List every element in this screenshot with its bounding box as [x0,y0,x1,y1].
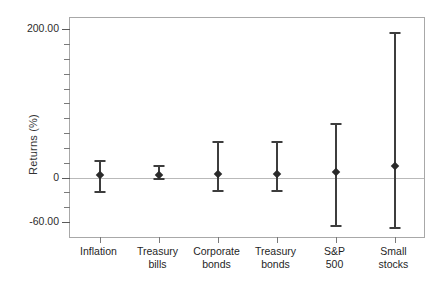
y-axis-major-tick [62,178,70,179]
y-axis-major-tick [62,222,70,223]
x-axis-tick [336,237,337,243]
error-bar-line [394,33,396,228]
x-axis-category-label: Inflation [80,245,117,258]
x-axis-category-label: Corporate bonds [193,245,240,270]
x-axis-category-label: Treasury bills [137,245,178,270]
error-bar [70,18,424,237]
error-bar-cap-lower [389,227,400,229]
error-bar-chart: Returns (%) 200.000-60.00InflationTreasu… [0,0,441,289]
x-axis-category-label: Small stocks [379,245,409,270]
y-axis-tick-label: -60.00 [29,215,59,227]
x-axis-category-label: S&P 500 [324,245,345,270]
x-axis-category-label: Treasury bonds [255,245,296,270]
x-axis-tick [395,237,396,243]
plot-inner [70,18,424,237]
data-point-marker [390,162,398,170]
x-axis-tick [100,237,101,243]
error-bar-cap-upper [389,32,400,34]
x-axis-tick [218,237,219,243]
y-axis-tick-label: 200.00 [27,22,59,34]
y-axis-major-tick [62,29,70,30]
x-axis-tick [277,237,278,243]
y-axis-tick-label: 0 [53,171,59,183]
x-axis-tick [159,237,160,243]
y-axis-title: Returns (%) [22,0,44,289]
plot-area [69,17,425,238]
